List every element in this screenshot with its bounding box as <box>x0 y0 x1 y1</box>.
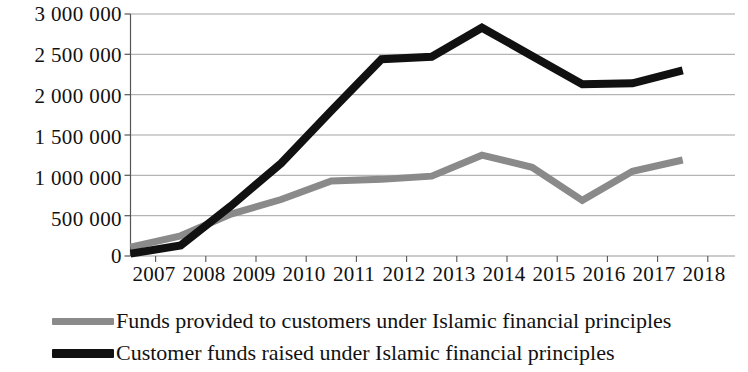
x-axis-tick-labels: 2007 2008 2009 2010 2011 2012 2013 2014 … <box>130 261 736 295</box>
y-axis-ticks <box>125 14 131 256</box>
data-series-lines <box>131 28 683 254</box>
legend-swatch-icon <box>52 318 114 325</box>
line-chart-figure: 3 000 000 2 500 000 2 000 000 1 500 000 … <box>0 0 748 372</box>
legend-swatch-icon <box>52 349 114 358</box>
chart-plot-region: 3 000 000 2 500 000 2 000 000 1 500 000 … <box>0 0 748 300</box>
legend-entry-funds-provided: Funds provided to customers under Islami… <box>52 306 671 336</box>
legend-entry-customer-funds-raised: Customer funds raised under Islamic fina… <box>52 338 615 368</box>
legend-label: Customer funds raised under Islamic fina… <box>116 340 615 366</box>
chart-legend: Funds provided to customers under Islami… <box>0 302 748 372</box>
series-line <box>131 28 683 254</box>
legend-label: Funds provided to customers under Islami… <box>116 308 671 334</box>
chart-canvas <box>0 0 748 300</box>
series-line <box>131 155 683 247</box>
x-tick-label: 2018 <box>675 261 733 287</box>
